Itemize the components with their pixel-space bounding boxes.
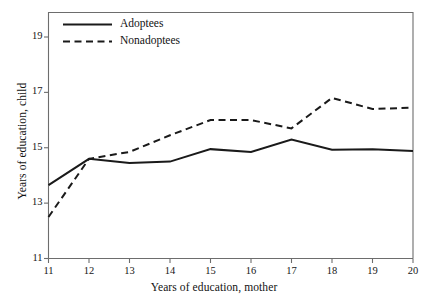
x-tick-label: 16 — [236, 265, 266, 276]
y-tick-label: 17 — [17, 85, 43, 96]
y-tick-label: 19 — [17, 30, 43, 41]
x-tick-label: 19 — [358, 265, 388, 276]
legend-label-nonadoptees: Nonadoptees — [120, 34, 180, 46]
series-line-adoptees — [49, 139, 414, 185]
legend-swatches — [63, 25, 112, 42]
chart-figure: Years of education, mother Years of educ… — [0, 0, 428, 303]
y-tick-label: 11 — [17, 252, 43, 263]
x-tick-label: 13 — [115, 265, 145, 276]
x-tick-label: 12 — [74, 265, 104, 276]
x-tick-label: 18 — [317, 265, 347, 276]
x-axis-title: Years of education, mother — [0, 281, 428, 293]
y-tick-label: 15 — [17, 141, 43, 152]
x-tick-label: 17 — [277, 265, 307, 276]
legend-label-adoptees: Adoptees — [120, 17, 163, 29]
x-tick-label: 15 — [196, 265, 226, 276]
y-tick-label: 13 — [17, 196, 43, 207]
series-line-nonadoptees — [49, 98, 414, 217]
line-chart-canvas — [0, 0, 428, 303]
data-series-group — [49, 98, 414, 217]
x-tick-label: 14 — [155, 265, 185, 276]
plot-frame — [49, 13, 414, 259]
x-tick-label: 11 — [34, 265, 64, 276]
x-tick-label: 20 — [398, 265, 428, 276]
